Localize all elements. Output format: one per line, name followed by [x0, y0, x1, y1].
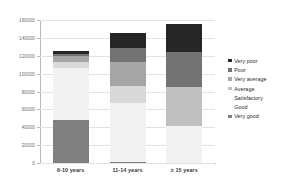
bar-segment[interactable]	[110, 33, 146, 47]
legend-item[interactable]: Average	[228, 84, 294, 93]
bar-segment[interactable]	[110, 86, 146, 103]
legend-item-label: Poor	[234, 67, 246, 73]
y-axis-tick-label: 100000	[19, 71, 35, 76]
y-axis-tick-label: 80000	[22, 89, 35, 94]
y-axis-tick-label: 160000	[19, 18, 35, 23]
legend-swatch-icon	[228, 115, 232, 119]
bar-segment[interactable]	[53, 120, 89, 163]
legend-item[interactable]: Good	[228, 102, 294, 111]
legend-item[interactable]: Poor	[228, 65, 294, 74]
y-tick-mark	[37, 38, 40, 39]
legend-item-label: Very average	[234, 76, 266, 82]
y-tick-mark	[37, 145, 40, 146]
y-tick-mark	[37, 74, 40, 75]
legend-item[interactable]: Satisfactory	[228, 93, 294, 102]
bar-group[interactable]	[53, 20, 89, 163]
bar-segment[interactable]	[166, 24, 202, 52]
legend-item[interactable]: Very average	[228, 75, 294, 84]
legend-item-label: Good	[234, 104, 247, 110]
y-tick-mark	[37, 163, 40, 164]
x-axis-tick-label: ≥ 15 years	[149, 167, 219, 173]
bar-group[interactable]	[166, 20, 202, 163]
legend-item-label: Satisfactory	[234, 95, 263, 101]
y-tick-mark	[37, 92, 40, 93]
y-tick-mark	[37, 109, 40, 110]
bar-group[interactable]	[110, 20, 146, 163]
bar-segment[interactable]	[166, 52, 202, 87]
legend-item[interactable]: Very poor	[228, 56, 294, 65]
legend-swatch-icon	[228, 77, 232, 81]
bar-segment[interactable]	[53, 68, 89, 120]
bar-segment[interactable]	[110, 62, 146, 86]
y-axis-tick-label: 0	[32, 161, 35, 166]
y-axis-tick-label: 120000	[19, 53, 35, 58]
bar-segment[interactable]	[53, 62, 89, 68]
y-axis-tick-label: 40000	[22, 125, 35, 130]
legend-swatch-icon	[228, 68, 232, 72]
bar-segment[interactable]	[110, 48, 146, 63]
bar-segment[interactable]	[53, 56, 89, 62]
plot-area: 0200004000060000800001000001200001400001…	[40, 20, 215, 163]
legend-item-label: Very good	[234, 113, 259, 119]
y-axis-tick-label: 140000	[19, 35, 35, 40]
bar-segment[interactable]	[110, 103, 146, 162]
y-tick-mark	[37, 127, 40, 128]
bar-segment[interactable]	[110, 162, 146, 163]
legend-item[interactable]: Very good	[228, 112, 294, 121]
y-tick-mark	[37, 20, 40, 21]
legend-swatch-icon	[228, 87, 232, 91]
legend-swatch-icon	[228, 59, 232, 63]
bar-segment[interactable]	[53, 51, 89, 54]
legend-swatch-icon	[228, 105, 232, 109]
legend-item-label: Average	[234, 86, 254, 92]
y-axis-tick-label: 20000	[22, 143, 35, 148]
gridline	[40, 163, 215, 164]
bar-segment[interactable]	[166, 87, 202, 126]
bar-segment[interactable]	[53, 54, 89, 56]
y-tick-mark	[37, 56, 40, 57]
legend-swatch-icon	[228, 96, 232, 100]
legend-item-label: Very poor	[234, 58, 258, 64]
y-axis-tick-label: 60000	[22, 107, 35, 112]
bar-segment[interactable]	[166, 126, 202, 163]
stacked-bar-chart: 0200004000060000800001000001200001400001…	[0, 0, 296, 186]
chart-legend: Very poorPoorVery averageAverageSatisfac…	[228, 56, 294, 121]
